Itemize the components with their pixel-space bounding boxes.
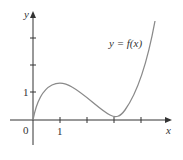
x-axis-arrow-icon <box>165 117 172 123</box>
y-axis-label: y <box>23 8 29 20</box>
function-curve <box>33 21 155 120</box>
function-graph: y x 0 1 1 y = f(x) <box>0 0 183 160</box>
y-axis-arrow-icon <box>30 11 36 18</box>
x-axis-label: x <box>165 124 171 136</box>
y-tick-label-1: 1 <box>23 86 29 98</box>
x-tick-label-1: 1 <box>57 125 63 137</box>
curve-label: y = f(x) <box>108 37 142 50</box>
origin-label: 0 <box>23 124 29 136</box>
